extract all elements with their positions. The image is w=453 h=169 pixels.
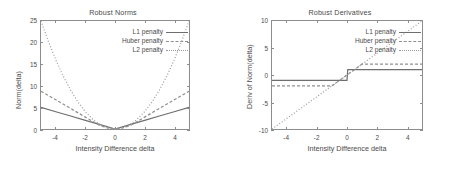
legend-line-sample-dotted [166,46,188,53]
legend-item: L2 penalty [355,45,421,54]
y-tick-mark [420,20,423,21]
legend-label: L2 penalty [366,45,396,54]
legend-item: Huber penalty [122,36,188,45]
y-tick-mark [187,130,190,131]
x-tick-label: 4 [406,134,410,141]
y-tick-label: 10 [30,83,37,90]
x-tick-label: -4 [52,134,58,141]
legend-label: Huber penalty [355,36,396,45]
y-tick-mark [420,103,423,104]
legend-line [399,50,421,51]
legend-line [166,32,188,33]
legend-line-sample-solid [166,28,188,35]
legend-line [166,41,188,42]
y-tick-label: 10 [261,17,268,24]
legend-line-sample-dashed [399,37,421,44]
x-axis-title: Intensity Difference delta [308,144,387,153]
chart-panel-robust-derivatives: Robust Derivatives -10-50510 -4-2024 Int… [227,0,453,169]
y-tick-mark [271,130,274,131]
x-tick-mark [377,20,378,23]
x-tick-label: 2 [143,134,147,141]
x-tick-label: -2 [314,134,320,141]
legend-line [399,41,421,42]
x-axis-title: Intensity Difference delta [76,144,155,153]
x-tick-mark [286,127,287,130]
y-tick-mark [40,86,43,87]
legend-line [166,50,188,51]
x-tick-mark [55,20,56,23]
legend-label: L1 penalty [366,27,396,36]
y-tick-mark [187,20,190,21]
x-tick-mark [377,127,378,130]
x-tick-label: 0 [345,134,349,141]
y-tick-mark [40,130,43,131]
legend: L1 penaltyHuber penaltyL2 penalty [122,27,188,54]
y-tick-label: 0 [33,127,37,134]
y-tick-label: 5 [33,105,37,112]
y-tick-mark [40,108,43,109]
x-tick-mark [175,20,176,23]
x-tick-mark [115,127,116,130]
legend-item: Huber penalty [355,36,421,45]
x-tick-mark [85,127,86,130]
y-tick-label: -5 [262,99,268,106]
x-tick-label: 0 [113,134,117,141]
y-tick-mark [187,86,190,87]
y-tick-mark [40,42,43,43]
legend-item: L1 penalty [122,27,188,36]
x-tick-mark [115,20,116,23]
legend-line-sample-dashed [166,37,188,44]
y-tick-label: 0 [264,72,268,79]
y-tick-mark [40,20,43,21]
y-tick-label: 15 [30,61,37,68]
y-tick-label: -10 [259,127,268,134]
x-tick-mark [347,20,348,23]
y-axis-title: Deriv of Norm(delta) [245,44,254,109]
legend-label: Huber penalty [122,36,163,45]
series-line [41,91,189,129]
series-line [41,107,189,129]
legend-label: L1 penalty [133,27,163,36]
y-tick-mark [187,108,190,109]
x-tick-mark [317,127,318,130]
figure-canvas: Robust Norms 0510152025 -4-2024 Intensit… [0,0,453,169]
legend-line-sample-solid [399,28,421,35]
legend: L1 penaltyHuber penaltyL2 penalty [355,27,421,54]
x-tick-label: -4 [283,134,289,141]
x-tick-label: 4 [173,134,177,141]
x-tick-mark [286,20,287,23]
y-tick-mark [271,75,274,76]
series-line [272,70,422,81]
legend-item: L1 penalty [355,27,421,36]
y-tick-mark [271,48,274,49]
y-axis-title: Norm(delta) [14,71,23,109]
y-tick-label: 5 [264,44,268,51]
y-tick-label: 25 [30,17,37,24]
legend-line-sample-dotted [399,46,421,53]
x-tick-mark [145,127,146,130]
x-tick-mark [85,20,86,23]
legend-label: L2 penalty [133,45,163,54]
y-tick-mark [187,64,190,65]
x-tick-mark [317,20,318,23]
x-tick-mark [145,20,146,23]
x-tick-label: 2 [376,134,380,141]
y-tick-mark [271,20,274,21]
y-tick-label: 20 [30,39,37,46]
y-tick-mark [420,75,423,76]
x-tick-mark [408,127,409,130]
x-tick-mark [55,127,56,130]
y-tick-mark [420,130,423,131]
y-tick-mark [40,64,43,65]
chart-panel-robust-norms: Robust Norms 0510152025 -4-2024 Intensit… [0,0,226,169]
x-tick-label: -2 [82,134,88,141]
x-tick-mark [347,127,348,130]
legend-item: L2 penalty [122,45,188,54]
x-tick-mark [175,127,176,130]
legend-line [399,32,421,33]
y-tick-mark [271,103,274,104]
x-tick-mark [408,20,409,23]
